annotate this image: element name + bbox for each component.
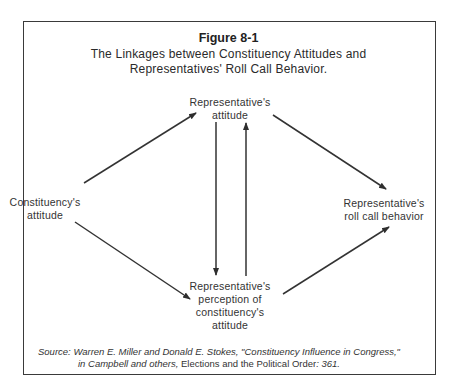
node-representative-roll-call-behavior: Representative's roll call behavior [322,197,446,223]
node-label-line: Constituency's [0,196,90,209]
node-label-line: Representative's [168,96,292,109]
node-label-line: roll call behavior [322,210,446,223]
source-citation: Source: Warren E. Miller and Donald E. S… [38,346,400,370]
node-label-line: attitude [168,109,292,122]
node-label-line: attitude [0,209,90,222]
arrow-attitude-to-roll-call [273,115,386,189]
source-line2: in Campbell and others, Elections and th… [38,358,400,370]
node-label-line: Representative's [168,280,292,293]
node-label-line: constituency's [168,306,292,319]
arrow-constituency-to-rep-attitude [84,113,196,183]
node-representative-attitude: Representative's attitude [168,96,292,122]
source-book-title: Elections and the Political Order [178,358,316,369]
node-representative-perception: Representative's perception of constitue… [168,280,292,332]
source-editors: in Campbell and others, [78,358,178,369]
node-label-line: Representative's [322,197,446,210]
node-label-line: attitude [168,319,292,332]
arrow-perception-to-roll-call [283,227,389,294]
node-constituency-attitude: Constituency's attitude [0,196,90,222]
source-label: Source: [38,346,71,357]
source-authors: Warren E. Miller and Donald E. Stokes, "… [73,346,400,357]
source-page: : 361. [316,358,340,369]
node-label-line: perception of [168,293,292,306]
source-line1: Source: Warren E. Miller and Donald E. S… [38,346,400,358]
